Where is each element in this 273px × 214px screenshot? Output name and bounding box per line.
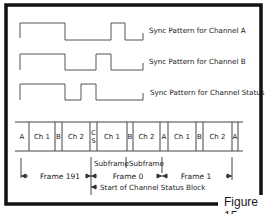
subframe-label-2: Subframe (129, 159, 165, 168)
figure-label: Figure 15 (222, 195, 273, 214)
cell-cs-s: S (91, 137, 95, 145)
waveform-channel-a (20, 23, 143, 40)
cell-cs-c: C (91, 129, 96, 137)
sync-label-a: Sync Pattern for Channel A (149, 26, 246, 35)
cell-ch1-1: Ch 1 (34, 133, 50, 141)
cell-ch2-2: Ch 2 (138, 133, 154, 141)
frame-1-label: Frame 1 (181, 172, 212, 181)
cell-a-3: A (233, 133, 238, 141)
subframe-label-1: Subframe (94, 159, 130, 168)
waveform-channel-b (20, 54, 143, 70)
cell-b-2: B (128, 133, 133, 141)
frame-0-label: Frame 0 (113, 172, 144, 181)
cell-ch1-2: Ch 1 (104, 133, 120, 141)
cell-a-2: A (162, 133, 167, 141)
waveform-channel-status (20, 84, 143, 100)
cell-ch2-3: Ch 2 (209, 133, 225, 141)
sync-label-cs: Sync Pattern for Channel Status (150, 88, 265, 97)
cell-b-3: B (197, 133, 202, 141)
sync-pattern-diagram: Sync Pattern for Channel A Sync Pattern … (0, 0, 273, 214)
frame-191-label: Frame 191 (40, 172, 80, 181)
cell-b-1: B (56, 133, 61, 141)
cell-a-1: A (20, 133, 25, 141)
cell-ch1-3: Ch 1 (174, 133, 190, 141)
start-block-label: Start of Channel Status Block (100, 183, 206, 192)
cell-ch2-1: Ch 2 (68, 133, 84, 141)
sync-label-b: Sync Pattern for Channel B (149, 57, 246, 66)
